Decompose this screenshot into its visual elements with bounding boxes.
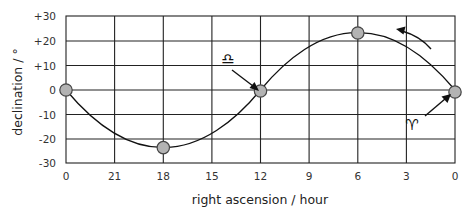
x-tick: 12 — [254, 170, 267, 182]
x-axis-ticks: 0 21 18 15 12 9 6 3 0 — [63, 170, 459, 182]
marker-ra-0 — [449, 86, 461, 98]
y-tick: -20 — [39, 133, 56, 145]
aries-symbol: ♈ — [405, 116, 418, 134]
x-tick: 21 — [108, 170, 121, 182]
libra-annotation: ♎ — [221, 50, 259, 91]
marker-ra-24 — [60, 84, 72, 96]
x-tick: 3 — [403, 170, 410, 182]
motion-arrowhead-icon — [396, 27, 406, 35]
y-axis-title: declination / ° — [10, 48, 25, 135]
y-tick: -10 — [39, 109, 56, 121]
motion-direction-arrow — [396, 27, 431, 50]
libra-arrow-line — [232, 70, 253, 86]
y-tick: -30 — [39, 157, 56, 169]
y-tick: +30 — [34, 10, 56, 22]
y-tick: 0 — [49, 84, 56, 96]
libra-symbol: ♎ — [221, 50, 234, 68]
x-tick: 0 — [63, 170, 70, 182]
y-tick: +10 — [34, 60, 56, 72]
aries-arrow-line — [425, 99, 445, 116]
marker-ra-6 — [352, 27, 364, 39]
x-tick: 0 — [452, 170, 459, 182]
y-axis-ticks: +30 +20 +10 0 -10 -20 -30 — [34, 10, 56, 169]
ecliptic-chart: +30 +20 +10 0 -10 -20 -30 0 21 18 15 12 … — [0, 0, 473, 213]
x-tick: 6 — [354, 170, 361, 182]
x-tick: 18 — [157, 170, 170, 182]
x-tick: 9 — [306, 170, 313, 182]
y-tick: +20 — [34, 35, 56, 47]
x-axis-title: right ascension / hour — [192, 192, 329, 207]
marker-ra-18 — [157, 141, 169, 153]
x-tick: 15 — [205, 170, 218, 182]
